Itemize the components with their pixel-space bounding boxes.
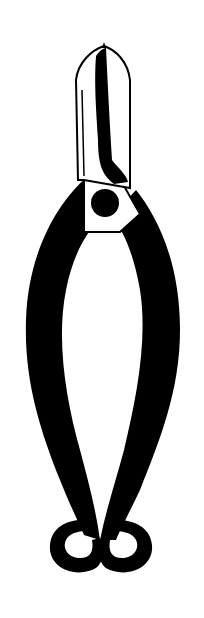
pivot-bolt <box>91 189 119 217</box>
pruning-shears-icon <box>0 0 204 618</box>
right-handle <box>100 190 180 540</box>
blade-tip <box>102 42 106 48</box>
